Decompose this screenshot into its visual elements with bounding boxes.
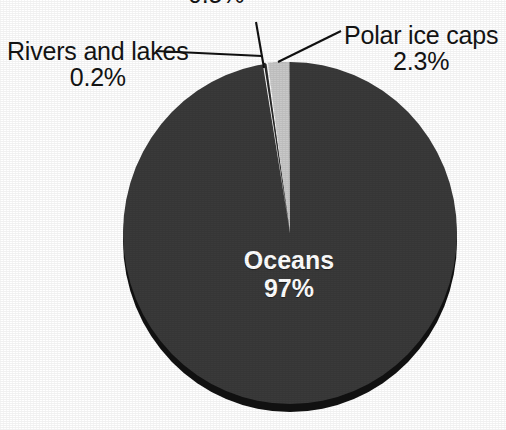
pie-chart: 0.5% Rivers and lakes 0.2% Polar ice cap… [0, 0, 506, 430]
slice-label-oceans: Oceans 97% [228, 247, 350, 302]
callout-polar-ice-caps: Polar ice caps 2.3% [344, 22, 498, 74]
leader-line-polar [278, 31, 341, 62]
slice-label-oceans-category: Oceans [228, 247, 350, 275]
leader-line-top [256, 22, 264, 68]
slice-label-oceans-value: 97% [228, 275, 350, 303]
callout-rivers-category: Rivers and lakes [7, 38, 189, 64]
callout-polar-category: Polar ice caps [344, 22, 498, 48]
callout-top-slice: 0.5% [188, 0, 244, 7]
callout-rivers-and-lakes: Rivers and lakes 0.2% [7, 38, 189, 90]
callout-rivers-value: 0.2% [7, 64, 189, 90]
callout-polar-value: 2.3% [344, 48, 498, 74]
callout-top-value: 0.5% [188, 0, 244, 7]
